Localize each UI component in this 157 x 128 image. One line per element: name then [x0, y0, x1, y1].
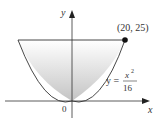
shaded-region [18, 40, 125, 101]
equation-numerator: x [124, 70, 129, 80]
equation-denominator: 16 [123, 83, 133, 93]
point-label: (20, 25) [117, 22, 149, 34]
point-marker [122, 37, 128, 43]
y-axis-arrow-icon [69, 10, 75, 18]
equation-lhs: y = [106, 75, 120, 86]
parabola-diagram: (20, 25) y x 0 y = x 2 16 [0, 0, 157, 128]
x-axis-label: x [147, 104, 153, 115]
equation-exponent: 2 [131, 68, 134, 74]
y-axis-label: y [60, 7, 66, 18]
origin-label: 0 [62, 104, 67, 114]
